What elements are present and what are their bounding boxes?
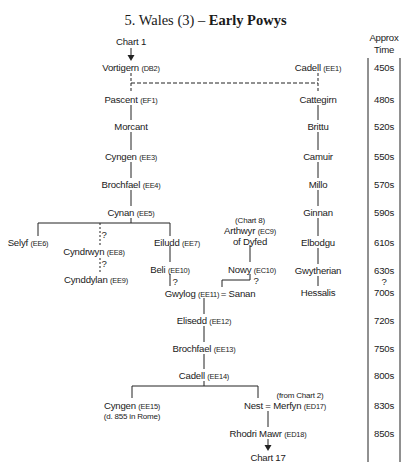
- time-label: 850s: [374, 428, 394, 439]
- node-brochfael-ee13: Brochfael (EE13): [172, 343, 235, 354]
- node-ginnan: Ginnan: [303, 207, 333, 218]
- time-label: 450s: [374, 62, 394, 73]
- time-label: 520s: [374, 121, 394, 132]
- time-header-approx: Approx: [369, 32, 398, 43]
- node-gwylog: Gwylog (EE11): [165, 288, 220, 299]
- node-elisedd: Elisedd (EE12): [177, 315, 231, 326]
- chart8-reference: (Chart 8): [235, 216, 265, 225]
- chart1-reference: Chart 1: [116, 36, 146, 47]
- time-label: 570s: [374, 179, 394, 190]
- time-label: 590s: [374, 207, 394, 218]
- node-cynan: Cynan (EE5): [107, 207, 154, 218]
- node-vortigern: Vortigern (DB2): [102, 62, 159, 73]
- node-cyngen-ee15: Cyngen (EE15): [104, 400, 160, 411]
- time-label: 800s: [374, 370, 394, 381]
- node-of-dyfed: of Dyfed: [233, 236, 267, 247]
- node-hessalis: Hessalis: [301, 287, 336, 298]
- node-cattegirn: Cattegirn: [299, 94, 336, 105]
- node-pascent: Pascent (EF1): [104, 94, 157, 105]
- node-cadell-ee1: Cadell (EE1): [295, 62, 341, 73]
- node-rhodri-mawr: Rhodri Mawr (ED18): [230, 428, 307, 439]
- node-nowy: Nowy (EC10): [228, 264, 276, 275]
- time-label: 630s: [374, 265, 394, 276]
- tree-lines: [0, 0, 411, 464]
- node-selyf: Selyf (EE6): [8, 237, 49, 248]
- node-cyngen-ee3: Cyngen (EE3): [105, 151, 157, 162]
- time-header-time: Time: [374, 44, 394, 55]
- node-sanan: = Sanan: [221, 288, 256, 299]
- uncertain-mark: ?: [172, 276, 177, 287]
- time-label: 750s: [374, 343, 394, 354]
- node-arthwyr: Arthwyr (EC9): [224, 225, 276, 236]
- uncertain-mark: ?: [101, 258, 106, 269]
- node-gwytherian: Gwytherian: [295, 265, 342, 276]
- time-label: 610s: [374, 237, 394, 248]
- node-camuir: Camuir: [303, 151, 333, 162]
- node-beli: Beli (EE10): [150, 264, 189, 275]
- node-eiludd: Eiludd (EE7): [154, 237, 200, 248]
- chart2-reference: (from Chart 2): [277, 391, 324, 400]
- node-cyndrwyn: Cyndrwyn (EE8): [63, 246, 124, 257]
- time-label: 720s: [374, 315, 394, 326]
- node-morcant: Morcant: [114, 121, 147, 132]
- time-label-uncertain: ?: [381, 276, 386, 287]
- node-brittu: Brittu: [307, 121, 328, 132]
- time-label: 830s: [374, 400, 394, 411]
- note-cyngen-death: (d. 855 in Rome): [104, 412, 160, 421]
- node-millo: Millo: [309, 179, 328, 190]
- time-label: 480s: [374, 94, 394, 105]
- uncertain-mark: ?: [101, 229, 106, 240]
- node-nest-merfyn: Nest = Merfyn (ED17): [244, 400, 326, 411]
- time-label: 700s: [374, 287, 394, 298]
- time-label: 550s: [374, 151, 394, 162]
- node-cynddylan: Cynddylan (EE9): [64, 274, 128, 285]
- uncertain-mark: ?: [253, 275, 258, 286]
- node-brochfael-ee4: Brochfael (EE4): [101, 179, 160, 190]
- node-cadell-ee14: Cadell (EE14): [179, 370, 229, 381]
- chart17-reference: Chart 17: [250, 452, 285, 463]
- node-elbodgu: Elbodgu: [301, 237, 335, 248]
